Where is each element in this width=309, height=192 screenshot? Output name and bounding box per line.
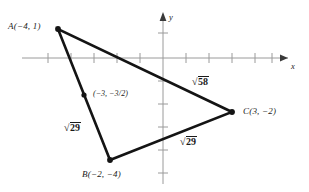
y-axis: [158, 12, 168, 184]
side-length-bc: √29: [180, 136, 197, 148]
x-axis-arrowhead: [280, 55, 288, 62]
y-axis-arrowhead: [160, 12, 167, 21]
midpoint-label: (−3, −3/2): [93, 90, 128, 98]
radicand-bc: 29: [186, 136, 197, 148]
midpoint-label-suffix: ): [125, 89, 128, 98]
radicand-ac: 58: [198, 76, 209, 88]
geometry-figure: A(−4, 1) B(−2, −4) C(3, −2) (−3, −3/2) √…: [0, 0, 309, 192]
vertex-dots: [55, 26, 235, 163]
vertex-dot-b: [107, 157, 113, 163]
side-length-ac: √58: [192, 76, 209, 88]
vertex-label-c: C(3, −2): [243, 107, 276, 116]
vertex-dot-a: [55, 26, 61, 32]
midpoint-fraction-denominator: 2: [121, 89, 125, 98]
x-axis: [22, 53, 288, 63]
midpoint-label-fraction: 3/2: [114, 90, 125, 98]
vertex-label-b: B(−2, −4): [82, 170, 121, 179]
side-length-ab: √29: [64, 122, 81, 134]
vertex-dot-c: [229, 109, 235, 115]
vertex-label-a: A(−4, 1): [8, 22, 41, 31]
midpoint-dot: [81, 92, 86, 97]
figure-canvas: [0, 0, 309, 192]
y-axis-label: y: [169, 13, 173, 22]
radicand-ab: 29: [70, 122, 81, 134]
x-axis-label: x: [291, 62, 295, 71]
midpoint-label-prefix: (−3, −: [93, 89, 114, 98]
